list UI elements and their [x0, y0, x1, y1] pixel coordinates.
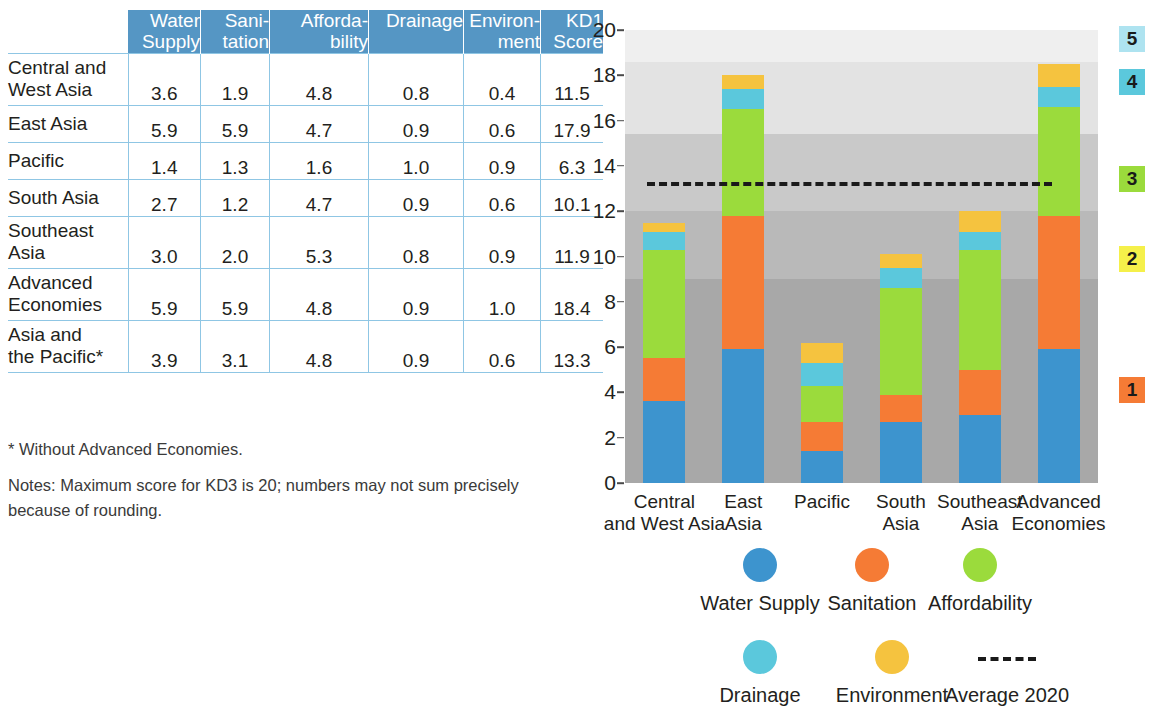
y-tick	[617, 29, 624, 31]
bar-pacific[interactable]	[801, 343, 843, 483]
bar-segment-environment[interactable]	[722, 75, 764, 89]
cell-drainage: 0.8	[369, 216, 464, 268]
bar-segment-sanitation[interactable]	[643, 358, 685, 401]
circle-marker-icon	[855, 548, 889, 582]
legend-label-drainage: Drainage	[719, 684, 800, 706]
y-tick-label: 12	[586, 199, 616, 223]
bar-segment-water-supply[interactable]	[880, 422, 922, 483]
bar-central-and-west-asia[interactable]	[643, 223, 685, 483]
cell-affordability: 4.8	[270, 268, 369, 320]
bar-segment-sanitation[interactable]	[880, 395, 922, 422]
bar-segment-sanitation[interactable]	[959, 370, 1001, 415]
bar-segment-water-supply[interactable]	[801, 451, 843, 483]
bar-segment-sanitation[interactable]	[1038, 216, 1080, 350]
y-tick-label: 6	[586, 335, 616, 359]
bar-segment-affordability[interactable]	[801, 386, 843, 422]
cell-drainage: 0.9	[369, 268, 464, 320]
table-body: Central and West Asia 3.6 1.9 4.8 0.8 0.…	[8, 53, 603, 372]
scale-badge-1: 1	[1119, 377, 1145, 403]
row-label: Southeast Asia	[8, 216, 128, 268]
bar-segment-affordability[interactable]	[959, 250, 1001, 370]
table-row: Southeast Asia 3.0 2.0 5.3 0.8 0.9 11.9	[8, 216, 603, 268]
y-tick	[617, 256, 624, 258]
cell-sanitation: 3.1	[201, 320, 270, 372]
y-tick	[617, 346, 624, 348]
background-band-5	[625, 30, 1098, 62]
cell-environment: 0.6	[464, 179, 541, 216]
cell-water-supply: 2.7	[128, 179, 201, 216]
bar-advanced-economies[interactable]	[1038, 64, 1080, 483]
bar-south-asia[interactable]	[880, 254, 922, 483]
y-tick-label: 2	[586, 426, 616, 450]
bar-segment-drainage[interactable]	[1038, 87, 1080, 107]
table-header-row: Water Supply Sani- tation Afforda- bilit…	[8, 10, 603, 53]
bar-east-asia[interactable]	[722, 75, 764, 483]
row-label: South Asia	[8, 179, 128, 216]
y-tick-label: 8	[586, 290, 616, 314]
cell-water-supply: 5.9	[128, 105, 201, 142]
cell-affordability: 4.7	[270, 179, 369, 216]
cell-environment: 1.0	[464, 268, 541, 320]
table-row: South Asia 2.7 1.2 4.7 0.9 0.6 10.1	[8, 179, 603, 216]
cell-environment: 0.9	[464, 216, 541, 268]
bar-segment-water-supply[interactable]	[1038, 349, 1080, 483]
background-band-3	[625, 134, 1098, 211]
bar-segment-drainage[interactable]	[722, 89, 764, 109]
bar-segment-drainage[interactable]	[801, 363, 843, 386]
x-axis-label-5: Advanced Economies	[974, 491, 1144, 536]
cell-drainage: 0.9	[369, 105, 464, 142]
legend-label-average-2020: Average 2020	[945, 684, 1069, 706]
bar-segment-water-supply[interactable]	[959, 415, 1001, 483]
cell-drainage: 0.8	[369, 53, 464, 105]
cell-environment: 0.4	[464, 53, 541, 105]
cell-water-supply: 1.4	[128, 142, 201, 179]
background-band-4	[625, 62, 1098, 134]
bar-segment-affordability[interactable]	[1038, 107, 1080, 216]
y-tick	[617, 165, 624, 167]
bar-segment-environment[interactable]	[959, 211, 1001, 231]
column-header-water-supply: Water Supply	[128, 10, 201, 53]
column-header-affordability: Afforda- bility	[270, 10, 369, 53]
bar-segment-drainage[interactable]	[959, 232, 1001, 250]
background-band-1	[625, 279, 1098, 483]
cell-sanitation: 1.3	[201, 142, 270, 179]
bar-segment-water-supply[interactable]	[643, 401, 685, 483]
cell-affordability: 5.3	[270, 216, 369, 268]
average-2020-line	[647, 182, 1052, 186]
y-tick	[617, 210, 624, 212]
y-tick	[617, 301, 624, 303]
bar-segment-environment[interactable]	[1038, 64, 1080, 87]
bar-segment-affordability[interactable]	[722, 109, 764, 215]
y-tick-label: 16	[586, 109, 616, 133]
bar-segment-environment[interactable]	[643, 223, 685, 232]
scale-badge-5: 5	[1119, 26, 1145, 52]
cell-water-supply: 3.6	[128, 53, 201, 105]
scale-badge-3: 3	[1119, 166, 1145, 192]
bar-segment-drainage[interactable]	[880, 268, 922, 288]
y-tick-label: 14	[586, 154, 616, 178]
table-notes: Notes: Maximum score for KD3 is 20; numb…	[8, 473, 568, 524]
bar-segment-drainage[interactable]	[643, 232, 685, 250]
table-footnote: * Without Advanced Economies.	[8, 437, 568, 463]
cell-water-supply: 5.9	[128, 268, 201, 320]
bar-segment-environment[interactable]	[801, 343, 843, 363]
cell-sanitation: 5.9	[201, 268, 270, 320]
table-header: Water Supply Sani- tation Afforda- bilit…	[8, 10, 603, 53]
y-tick	[617, 482, 624, 484]
bar-segment-environment[interactable]	[880, 254, 922, 268]
table-row: Asia and the Pacific* 3.9 3.1 4.8 0.9 0.…	[8, 320, 603, 372]
row-label: Advanced Economies	[8, 268, 128, 320]
y-tick-label: 4	[586, 380, 616, 404]
row-label: Asia and the Pacific*	[8, 320, 128, 372]
column-header-sanitation: Sani- tation	[201, 10, 270, 53]
bar-segment-sanitation[interactable]	[722, 216, 764, 350]
row-label: Central and West Asia	[8, 53, 128, 105]
bar-segment-affordability[interactable]	[643, 250, 685, 359]
cell-sanitation: 1.2	[201, 179, 270, 216]
bar-southeast-asia[interactable]	[959, 211, 1001, 483]
bar-segment-affordability[interactable]	[880, 288, 922, 394]
cell-affordability: 4.7	[270, 105, 369, 142]
bar-segment-sanitation[interactable]	[801, 422, 843, 451]
bar-segment-water-supply[interactable]	[722, 349, 764, 483]
y-tick-label: 18	[586, 63, 616, 87]
